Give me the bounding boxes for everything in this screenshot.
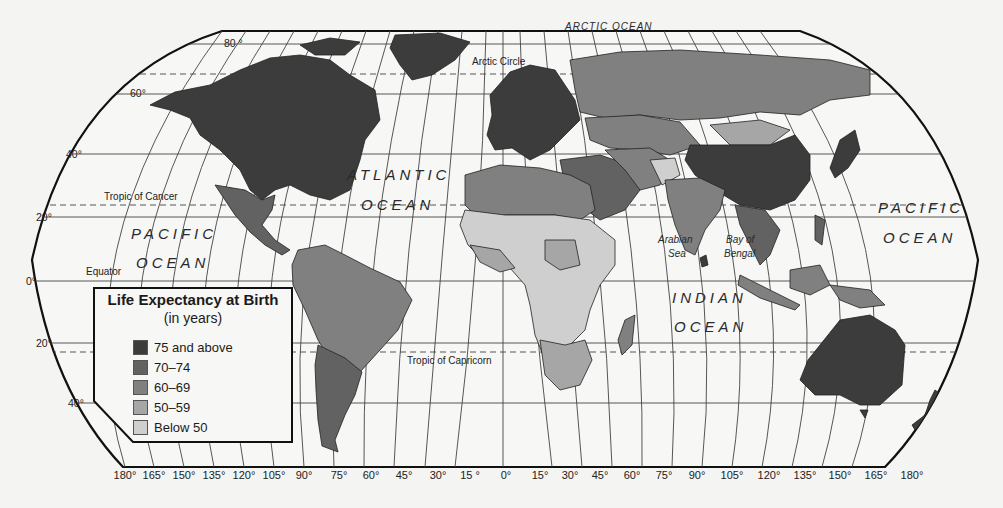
lon-label: 45° bbox=[592, 469, 609, 481]
legend-item-label: 75 and above bbox=[154, 340, 233, 355]
lon-label: 150° bbox=[829, 469, 852, 481]
legend-items: 75 and above 70–74 60–69 50–59 Below 50 bbox=[133, 337, 233, 437]
indian-ocean-label-2: OCEAN bbox=[674, 318, 747, 335]
lon-label: 105° bbox=[721, 469, 744, 481]
bay-of-bengal-label-2: Bengal bbox=[724, 248, 755, 259]
lon-label: 120° bbox=[758, 469, 781, 481]
lon-label: 165° bbox=[143, 469, 166, 481]
lon-label: 150° bbox=[173, 469, 196, 481]
pacific-west-label-1: PACIFIC bbox=[131, 225, 217, 242]
legend-swatch-icon bbox=[133, 360, 148, 375]
indian-ocean-label-1: INDIAN bbox=[672, 289, 747, 306]
legend-item-60-69: 60–69 bbox=[133, 377, 233, 397]
lon-label: 15 ° bbox=[460, 469, 480, 481]
lon-label: 120° bbox=[233, 469, 256, 481]
legend-swatch-icon bbox=[133, 340, 148, 355]
lon-label: 45° bbox=[396, 469, 413, 481]
legend-title: Life Expectancy at Birth bbox=[93, 291, 293, 308]
legend: Life Expectancy at Birth (in years) 75 a… bbox=[93, 287, 293, 443]
lon-label: 75° bbox=[331, 469, 348, 481]
lat-label-0: 0° bbox=[26, 275, 36, 287]
legend-swatch-icon bbox=[133, 420, 148, 435]
legend-item-label: Below 50 bbox=[154, 420, 207, 435]
tropic-cancer-label: Tropic of Cancer bbox=[104, 191, 178, 202]
lon-label: 180° bbox=[901, 469, 924, 481]
arctic-circle-label: Arctic Circle bbox=[472, 56, 525, 67]
pacific-west-label-2: OCEAN bbox=[136, 254, 209, 271]
legend-item-label: 70–74 bbox=[154, 360, 190, 375]
lon-label: 135° bbox=[203, 469, 226, 481]
pacific-east-label-2: OCEAN bbox=[883, 229, 956, 246]
arabian-sea-label-2: Sea bbox=[668, 248, 686, 259]
lat-label-80: 80 ° bbox=[224, 37, 243, 49]
lon-label: 60° bbox=[624, 469, 641, 481]
legend-item-50-59: 50–59 bbox=[133, 397, 233, 417]
legend-item-below-50: Below 50 bbox=[133, 417, 233, 437]
lon-label: 90° bbox=[296, 469, 313, 481]
lon-label: 15° bbox=[532, 469, 549, 481]
lon-label: 75° bbox=[656, 469, 673, 481]
legend-item-70-74: 70–74 bbox=[133, 357, 233, 377]
lon-label: 105° bbox=[263, 469, 286, 481]
lon-label: 165° bbox=[865, 469, 888, 481]
atlantic-ocean-label-2: OCEAN bbox=[361, 196, 434, 213]
tropic-capricorn-label: Tropic of Capricorn bbox=[407, 355, 492, 366]
lat-label-40: 40° bbox=[66, 148, 82, 160]
pacific-east-label-1: PACIFIC bbox=[878, 199, 964, 216]
legend-subtitle: (in years) bbox=[93, 310, 293, 326]
lat-label-20s: 20° bbox=[36, 337, 52, 349]
equator-label: Equator bbox=[86, 266, 121, 277]
lon-label: 0° bbox=[501, 469, 512, 481]
bay-of-bengal-label-1: Bay of bbox=[726, 234, 754, 245]
lon-label: 30° bbox=[430, 469, 447, 481]
lon-label: 180° bbox=[114, 469, 137, 481]
legend-item-label: 50–59 bbox=[154, 400, 190, 415]
arctic-ocean-label: ARCTIC OCEAN bbox=[565, 21, 653, 32]
legend-swatch-icon bbox=[133, 380, 148, 395]
lon-label: 60° bbox=[363, 469, 380, 481]
lat-label-40s: 40° bbox=[68, 397, 84, 409]
lon-label: 135° bbox=[794, 469, 817, 481]
lat-label-60: 60° bbox=[130, 87, 146, 99]
lat-label-20n: 20° bbox=[36, 211, 52, 223]
legend-swatch-icon bbox=[133, 400, 148, 415]
lon-label: 30° bbox=[562, 469, 579, 481]
lon-label: 90° bbox=[689, 469, 706, 481]
longitude-labels: 180° 165° 150° 135° 120° 105° 90° 75° 60… bbox=[0, 469, 1003, 485]
arabian-sea-label-1: Arabian bbox=[658, 234, 692, 245]
legend-item-75-plus: 75 and above bbox=[133, 337, 233, 357]
atlantic-ocean-label-1: ATLANTIC bbox=[347, 166, 450, 183]
legend-item-label: 60–69 bbox=[154, 380, 190, 395]
